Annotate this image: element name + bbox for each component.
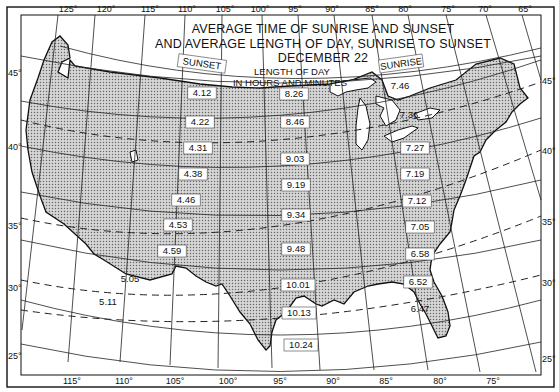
bottom-longitude-label: 75° [486,376,500,386]
day-length-label-text: 9.34 [287,209,306,220]
right-latitude-label: 35° [542,217,556,227]
day-length-label-text: 9.19 [287,179,306,190]
right-latitude-label: 30° [542,278,556,288]
sunrise-time-label-text: 7.46 [391,80,410,91]
sunset-time-label-text: 5.11 [99,296,117,307]
sunset-time-label: 4.59 [158,245,186,257]
top-longitude-label: 125° [59,4,78,14]
bottom-longitude-label: 110° [115,376,133,386]
sunset-time-label: 4.12 [188,87,216,99]
bottom-longitude-label: 115° [63,376,81,386]
sunset-time-label: 5.11 [99,296,117,307]
top-longitude-labels: 125°120°115°110°105°100°95°90°85°80°75°7… [59,4,533,14]
right-latitude-label: 45° [542,76,556,86]
sunset-time-label: 4.22 [186,116,214,128]
sunrise-time-label-text: 6.58 [411,248,430,259]
sunrise-time-label-text: 7.27 [406,142,425,153]
day-length-label-text: 8.46 [286,116,305,127]
top-longitude-label: 100° [251,4,270,14]
sunrise-time-label: 7.27 [401,142,429,154]
bottom-longitude-label: 80° [433,376,447,386]
day-length-label: 10.01 [281,279,315,291]
day-length-label: 8.26 [280,88,308,100]
day-length-label-text: 10.13 [287,307,311,318]
sunset-time-label-text: 4.46 [177,194,196,205]
bottom-longitude-label: 95° [273,376,287,386]
top-longitude-label: 115° [141,4,159,14]
sunset-time-label: 4.46 [172,194,200,206]
sunrise-time-label: 6.47 [411,303,430,314]
day-length-label-text: 8.26 [285,88,304,99]
bottom-longitude-label: 90° [326,376,340,386]
top-longitude-label: 75° [441,4,455,14]
top-longitude-label: 95° [288,4,302,14]
length-header-line-2: IN HOURS AND MINUTES [233,77,347,88]
top-longitude-label: 85° [365,4,379,14]
length-header-line-1: LENGTH OF DAY [254,66,330,77]
day-length-label: 8.46 [281,116,309,128]
sunrise-time-label: 7.12 [403,195,431,207]
bottom-longitude-labels: 115°110°105°100°95°90°85°80°75° [63,376,500,386]
title-line-3: DECEMBER 22 [278,51,368,65]
sunset-time-label: 4.53 [164,219,192,231]
sunset-header: SUNSET [177,54,226,74]
bottom-longitude-label: 105° [166,376,185,386]
top-longitude-label: 65° [518,4,532,14]
sunset-time-label: 4.38 [179,168,207,180]
sunrise-time-label-text: 7.19 [406,168,425,179]
sunset-time-label: 4.31 [184,142,212,154]
day-length-label-text: 10.24 [289,339,313,350]
top-longitude-label: 105° [216,4,235,14]
sunset-time-label-text: 4.12 [193,87,212,98]
day-length-label: 9.03 [281,153,309,165]
sunrise-time-label: 7.46 [391,80,410,91]
title-line-1: AVERAGE TIME OF SUNRISE AND SUNSET [192,22,455,36]
sunset-time-label-text: 4.31 [189,142,208,153]
right-latitude-label: 25° [542,354,556,364]
sunrise-time-label: 6.52 [404,276,432,288]
top-longitude-label: 70° [478,4,492,14]
left-latitude-label: 40° [8,142,22,152]
sunrise-time-label: 7.19 [401,168,429,180]
left-latitude-label: 35° [8,221,22,231]
day-length-label: 9.34 [282,209,310,221]
day-length-label-text: 9.03 [286,153,305,164]
right-latitude-label: 40° [542,146,556,156]
sunrise-time-label-text: 6.52 [409,276,428,287]
great-salt-lake [130,150,138,162]
left-latitude-label: 30° [8,283,22,293]
day-length-label: 10.13 [282,307,316,319]
sunrise-time-label-text: 6.47 [411,303,430,314]
sunrise-time-label: 7.36 [400,109,419,120]
sunset-time-label: 5.05 [121,273,140,284]
sunrise-time-label: 6.58 [406,248,434,260]
sunset-time-label-text: 5.05 [121,273,140,284]
day-length-label: 9.48 [282,243,310,255]
sunset-time-label-text: 4.22 [191,116,210,127]
left-latitude-label: 45° [8,68,22,78]
day-length-label: 10.24 [284,339,318,351]
day-length-label-text: 10.01 [286,279,310,290]
sunrise-time-label-text: 7.05 [411,221,430,232]
top-longitude-label: 110° [178,4,196,14]
sunrise-time-label: 7.05 [406,221,434,233]
sunset-time-label-text: 4.38 [184,168,203,179]
sunset-time-label-text: 4.59 [163,245,182,256]
sunrise-time-label-text: 7.36 [400,109,419,120]
title-line-2: AND AVERAGE LENGTH OF DAY, SUNRISE TO SU… [155,37,491,51]
bottom-longitude-label: 85° [379,376,393,386]
day-length-label: 9.19 [282,179,310,191]
bottom-longitude-label: 100° [219,376,238,386]
top-longitude-label: 80° [398,4,412,14]
left-latitude-label: 25° [8,351,22,361]
day-length-label-text: 9.48 [287,243,306,254]
top-longitude-label: 120° [97,4,116,14]
sunrise-sunset-map: AVERAGE TIME OF SUNRISE AND SUNSET AND A… [0,0,559,392]
left-latitude-labels: 45°40°35°30°25° [8,68,22,361]
sunset-time-label-text: 4.53 [169,219,188,230]
sunrise-time-label-text: 7.12 [408,195,427,206]
top-longitude-label: 90° [325,4,339,14]
sunrise-header: SUNRISE [378,54,423,73]
